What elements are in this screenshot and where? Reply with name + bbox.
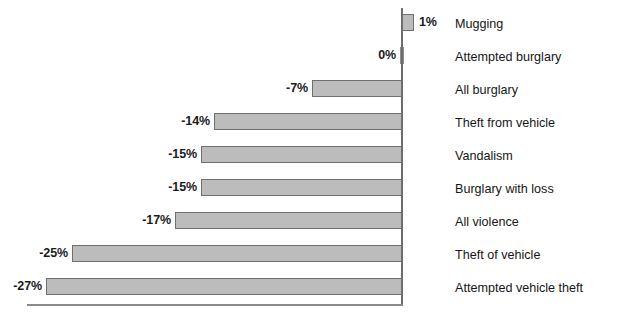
category-label-mugging: Mugging [455, 8, 503, 41]
bar-theft-from-vehicle [214, 113, 402, 130]
category-label-attempted-vehicle-theft: Attempted vehicle theft [455, 272, 583, 305]
category-label-layer: Mugging Attempted burglary All burglary … [455, 0, 620, 331]
baseline-axis-line [27, 304, 403, 306]
value-label-vandalism: -15% [132, 145, 197, 164]
value-label-theft-of-vehicle: -25% [3, 244, 68, 263]
value-label-burglary-with-loss: -15% [132, 178, 197, 197]
value-label-attempted-vehicle-theft: -27% [0, 277, 42, 296]
category-label-burglary-with-loss: Burglary with loss [455, 173, 554, 206]
value-label-theft-from-vehicle: -14% [145, 112, 210, 131]
bar-row: -27% [0, 272, 430, 305]
value-label-mugging: 1% [419, 13, 437, 32]
bar-all-burglary [312, 80, 402, 97]
category-label-theft-of-vehicle: Theft of vehicle [455, 239, 540, 272]
bar-vandalism [201, 146, 402, 163]
plot-area: 1% 0% -7% -14% -15% [0, 0, 430, 331]
bar-row: 1% [0, 8, 430, 41]
bar-attempted-vehicle-theft [46, 278, 402, 295]
zero-axis-line [401, 8, 403, 306]
value-label-all-violence: -17% [106, 211, 171, 230]
category-label-vandalism: Vandalism [455, 140, 513, 173]
bar-chart-figure: 1% 0% -7% -14% -15% [0, 0, 620, 331]
value-label-all-burglary: -7% [250, 79, 308, 98]
bar-row: -25% [0, 239, 430, 272]
bar-burglary-with-loss [201, 179, 402, 196]
category-label-all-burglary: All burglary [455, 74, 518, 107]
bar-theft-of-vehicle [72, 245, 402, 262]
value-label-attempted-burglary: 0% [340, 46, 396, 65]
category-label-theft-from-vehicle: Theft from vehicle [455, 107, 555, 140]
bar-row: 0% [0, 41, 430, 74]
bar-all-violence [175, 212, 402, 229]
bars-layer: 1% 0% -7% -14% -15% [0, 0, 430, 331]
bar-row: -17% [0, 206, 430, 239]
bar-row: -7% [0, 74, 430, 107]
category-label-all-violence: All violence [455, 206, 519, 239]
bar-row: -15% [0, 140, 430, 173]
bar-row: -14% [0, 107, 430, 140]
category-label-attempted-burglary: Attempted burglary [455, 41, 561, 74]
bar-row: -15% [0, 173, 430, 206]
